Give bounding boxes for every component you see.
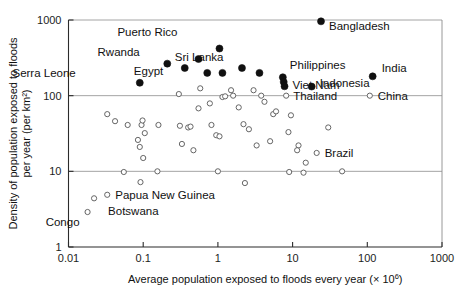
x-tick-label-3: 10: [286, 252, 298, 264]
data-point-open: [288, 113, 293, 118]
data-point-open: [191, 148, 196, 153]
data-point-filled: [219, 69, 226, 76]
data-point-open: [284, 93, 289, 98]
data-point-filled: [369, 73, 376, 80]
data-point-open: [137, 144, 142, 149]
point-label: Puerto Rico: [117, 26, 177, 38]
data-point-open: [286, 130, 291, 135]
y-axis-title-line2: per year (per km²): [20, 89, 32, 177]
data-point-open: [188, 124, 193, 129]
data-point-open: [155, 169, 160, 174]
y-tick-label-2: 100: [43, 90, 61, 102]
data-point-open: [177, 123, 182, 128]
y-tick-label-1: 10: [49, 165, 61, 177]
point-label: Serra Leone: [12, 67, 75, 79]
data-point-open: [105, 192, 110, 197]
data-point-open: [135, 137, 140, 142]
data-point-open: [138, 180, 143, 185]
data-point-open: [85, 209, 90, 214]
data-point-open: [242, 180, 247, 185]
data-point-open: [121, 169, 126, 174]
data-point-open: [198, 86, 203, 91]
data-point-open: [179, 141, 184, 146]
data-point-open: [215, 169, 220, 174]
point-label: Rwanda: [98, 46, 141, 58]
point-label: Congo: [46, 216, 80, 228]
x-tick-label-0: 0.01: [58, 252, 79, 264]
data-point-open: [231, 93, 236, 98]
x-tick-label-4: 100: [358, 252, 376, 264]
x-tick-label-5: 1000: [430, 252, 454, 264]
data-point-open: [314, 150, 319, 155]
data-point-open: [251, 88, 256, 93]
data-point-open: [196, 106, 201, 111]
point-label: Egypt: [134, 65, 164, 77]
data-point-open: [125, 122, 130, 127]
data-point-open: [176, 91, 181, 96]
data-point-open: [141, 155, 146, 160]
data-point-open: [228, 88, 233, 93]
point-label: China: [378, 90, 409, 102]
data-point-filled: [204, 69, 211, 76]
data-point-open: [207, 101, 212, 106]
x-tick-label-1: 0.1: [136, 252, 151, 264]
data-point-filled: [164, 60, 171, 67]
data-point-open: [140, 118, 145, 123]
data-point-open: [91, 196, 96, 201]
data-point-filled: [318, 18, 325, 25]
data-point-open: [156, 122, 161, 127]
scatter-plot-canvas: 0.010.111010010001101001000Average popul…: [0, 0, 470, 299]
data-point-open: [268, 139, 273, 144]
series-0: Serra LeoneRwandaEgyptPuerto RicoSri Lan…: [12, 18, 407, 91]
y-tick-label-3: 1000: [37, 14, 61, 26]
y-tick-label-0: 1: [55, 241, 61, 253]
point-label: Bangladesh: [329, 20, 390, 32]
data-point-open: [217, 134, 222, 139]
x-axis-title: Average population exposed to floods eve…: [128, 272, 403, 285]
data-point-filled: [181, 65, 188, 72]
data-point-open: [254, 143, 259, 148]
point-label: Botswana: [108, 205, 159, 217]
point-label: Papua New Guinea: [115, 189, 215, 201]
x-tick-label-2: 1: [215, 252, 221, 264]
series-1: CongoBotswanaPapua New GuineaThailandChi…: [46, 90, 409, 228]
data-point-open: [246, 127, 251, 132]
data-point-filled: [238, 65, 245, 72]
point-label: Sri Lanka: [175, 51, 224, 63]
point-label: Philippines: [290, 59, 346, 71]
data-point-open: [303, 160, 308, 165]
data-point-open: [287, 169, 292, 174]
point-label: India: [382, 62, 408, 74]
data-point-open: [241, 122, 246, 127]
data-point-open: [295, 148, 300, 153]
data-point-open: [273, 109, 278, 114]
data-point-open: [259, 93, 264, 98]
data-point-open: [326, 125, 331, 130]
data-point-open: [236, 105, 241, 110]
data-point-open: [367, 93, 372, 98]
data-point-filled: [256, 69, 263, 76]
data-point-open: [142, 131, 147, 136]
data-point-open: [262, 99, 267, 104]
data-point-open: [340, 169, 345, 174]
data-point-open: [209, 122, 214, 127]
point-label: Brazil: [325, 147, 354, 159]
data-point-filled: [281, 83, 288, 90]
point-label: Indonesia: [320, 77, 370, 89]
data-point-filled: [136, 79, 143, 86]
flood-exposure-scatter-figure: 0.010.111010010001101001000Average popul…: [0, 0, 470, 299]
data-point-open: [112, 119, 117, 124]
data-point-open: [105, 112, 110, 117]
data-point-open: [223, 94, 228, 99]
data-point-open: [301, 170, 306, 175]
point-label: Thailand: [293, 90, 337, 102]
